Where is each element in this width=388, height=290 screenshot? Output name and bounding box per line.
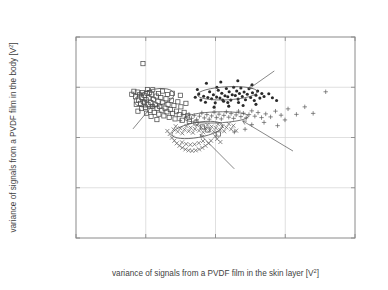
data-point-dot [238, 92, 241, 95]
data-point-dot [271, 96, 274, 99]
data-point-dot [214, 101, 217, 104]
data-point-dot [226, 101, 229, 104]
data-point-dot [202, 95, 205, 98]
data-point-cross [180, 140, 184, 144]
data-point-plus [207, 117, 211, 121]
data-point-plus [222, 113, 226, 117]
data-point-plus [209, 114, 213, 118]
data-point-cross [187, 129, 191, 133]
data-point-dot [227, 105, 230, 108]
data-point-plus [234, 113, 238, 117]
data-point-dot [199, 99, 202, 102]
data-point-plus [217, 112, 221, 116]
data-point-square [157, 112, 161, 116]
data-point-dot [253, 99, 256, 102]
x-axis-label: variance of signals from a PVDF film in … [112, 268, 319, 278]
data-point-dot [235, 90, 238, 93]
data-point-plus [214, 115, 218, 119]
data-point-plus [250, 109, 254, 113]
data-point-dot [212, 93, 215, 96]
data-point-cross [191, 131, 195, 135]
data-point-square [179, 105, 183, 109]
data-point-dot [241, 95, 244, 98]
data-point-dot [246, 93, 249, 96]
data-point-dot [267, 92, 270, 95]
data-point-dot [219, 80, 222, 83]
data-point-square [162, 114, 166, 118]
data-point-dot [194, 96, 197, 99]
data-point-dot [260, 92, 263, 95]
data-point-plus [205, 112, 209, 116]
data-point-cross [209, 139, 213, 143]
data-point-square [167, 115, 171, 119]
data-point-cross [201, 139, 205, 143]
data-point-dot [254, 103, 257, 106]
data-point-cross [231, 124, 235, 128]
data-point-cross [165, 129, 169, 133]
data-point-square [180, 118, 184, 122]
data-point-plus [279, 113, 283, 117]
data-point-dot [217, 89, 220, 92]
data-point-dot [234, 94, 237, 97]
data-point-dot [225, 87, 228, 90]
data-point-dot [208, 90, 211, 93]
data-point-cross [229, 127, 233, 131]
data-point-dot [228, 90, 231, 93]
data-point-cross [180, 131, 184, 135]
data-point-square [165, 92, 169, 96]
data-point-plus [275, 123, 279, 127]
data-point-square [173, 117, 177, 121]
data-point-cross [224, 125, 228, 129]
data-point-cross [197, 141, 201, 145]
data-point-dot [205, 82, 208, 85]
data-point-plus [244, 116, 248, 120]
data-point-dot [196, 88, 199, 91]
data-point-plus [273, 109, 277, 113]
data-point-dot [220, 92, 223, 95]
data-point-dot [242, 104, 245, 107]
data-point-square [152, 110, 156, 114]
data-point-cross [193, 127, 197, 131]
data-point-plus [262, 120, 266, 124]
data-point-dot [213, 106, 216, 109]
data-point-dot [258, 97, 261, 100]
data-point-square [216, 132, 220, 136]
data-point-dot [237, 101, 240, 104]
data-point-dot [244, 98, 247, 101]
data-point-plus [219, 117, 223, 121]
data-point-cross [183, 128, 187, 132]
data-point-cross [222, 129, 226, 133]
plot-canvas: variance of signals from a PVDF film in … [0, 0, 388, 290]
data-point-dot [236, 79, 239, 82]
data-point-square [141, 62, 145, 66]
data-point-cross [218, 140, 222, 144]
data-point-plus [324, 90, 328, 94]
data-point-plus [283, 118, 287, 122]
data-point-plus [239, 114, 243, 118]
data-point-dot [262, 95, 265, 98]
annotation-vinyl [249, 71, 274, 89]
data-point-dot [251, 91, 254, 94]
data-point-cross [184, 142, 188, 146]
data-point-cross [189, 126, 193, 130]
data-point-dot [232, 86, 235, 89]
y-axis-label: variance of signals from a PVDF film in … [8, 42, 18, 232]
data-point-dot [226, 95, 229, 98]
data-point-plus [303, 105, 307, 109]
data-point-dot [218, 97, 221, 100]
data-point-dot [229, 99, 232, 102]
data-point-dot [275, 99, 278, 102]
data-point-plus [231, 116, 235, 120]
data-point-dot [223, 94, 226, 97]
data-point-square [155, 118, 159, 122]
data-point-plus [256, 110, 260, 114]
data-point-cross [176, 130, 180, 134]
data-point-plus [253, 114, 257, 118]
data-point-plus [286, 107, 290, 111]
data-point-plus [268, 115, 272, 119]
annotation-paper [200, 134, 234, 168]
data-point-cross [168, 132, 172, 136]
data-point-dot [215, 96, 218, 99]
data-point-plus [259, 115, 263, 119]
data-point-dot [206, 96, 209, 99]
